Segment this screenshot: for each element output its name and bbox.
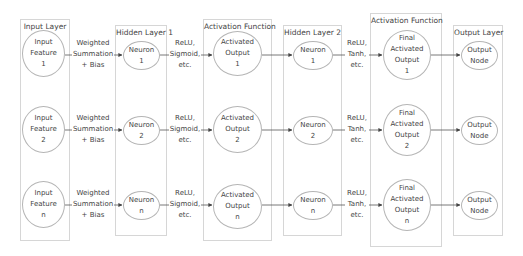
edge-label-activation-1-rown: ReLU, Sigmoid, etc. — [169, 188, 201, 221]
final-activated-output-1-node: Final Activated Output 1 — [383, 30, 431, 80]
final-activated-output-n-node: Final Activated Output n — [383, 179, 431, 231]
input-feature-2-label: Input Feature 2 — [30, 113, 56, 146]
neuron-n-layer-1-node: Neuron n — [123, 191, 160, 220]
activated-output-1-node: Activated Output 1 — [213, 31, 262, 76]
neuron-2-layer-2-label: Neuron 2 — [300, 120, 325, 142]
input-feature-1-label: Input Feature 1 — [30, 37, 56, 70]
edge-label-activation-2-row1: ReLU, Tanh, etc. — [345, 38, 369, 71]
output-node-n-label: Output Node — [467, 195, 491, 217]
neuron-n-layer-2-node: Neuron n — [293, 191, 333, 220]
edge-label-weighted-sum-2: Weighted Summation + Bias — [72, 113, 114, 146]
edge-label-activation-1-row2: ReLU, Sigmoid, etc. — [169, 113, 201, 146]
activated-output-n-label: Activated Output n — [221, 190, 254, 223]
edge-label-activation-2-rown: ReLU, Tanh, etc. — [345, 188, 369, 221]
neuron-1-layer-1-node: Neuron 1 — [123, 41, 160, 70]
input-feature-n-label: Input Feature n — [30, 188, 56, 221]
edge-label-activation-2-row2: ReLU, Tanh, etc. — [345, 113, 369, 146]
edge-label-weighted-sum-n: Weighted Summation + Bias — [72, 188, 114, 221]
activated-output-n-node: Activated Output n — [213, 184, 262, 229]
neuron-n-layer-2-label: Neuron n — [300, 195, 325, 217]
neuron-1-layer-2-node: Neuron 1 — [293, 41, 333, 70]
neuron-2-layer-2-node: Neuron 2 — [293, 116, 333, 145]
neuron-1-layer-1-label: Neuron 1 — [129, 45, 154, 67]
output-node-1-label: Output Node — [467, 45, 491, 67]
activated-output-1-label: Activated Output 1 — [221, 37, 254, 70]
neuron-2-layer-1-node: Neuron 2 — [123, 116, 160, 145]
neuron-1-layer-2-label: Neuron 1 — [300, 45, 325, 67]
edge-label-activation-1-row1: ReLU, Sigmoid, etc. — [169, 38, 201, 71]
output-node-2-label: Output Node — [467, 120, 491, 142]
input-feature-n-node: Input Feature n — [22, 181, 65, 228]
input-feature-1-node: Input Feature 1 — [22, 30, 65, 77]
neuron-2-layer-1-label: Neuron 2 — [129, 120, 154, 142]
input-feature-2-node: Input Feature 2 — [22, 106, 65, 153]
final-activated-output-1-label: Final Activated Output 1 — [390, 33, 423, 77]
final-activated-output-2-node: Final Activated Output 2 — [383, 104, 431, 156]
edge-label-weighted-sum-1: Weighted Summation + Bias — [72, 38, 114, 71]
neuron-n-layer-1-label: Neuron n — [129, 195, 154, 217]
output-node-n: Output Node — [461, 191, 498, 220]
output-node-2: Output Node — [461, 116, 498, 145]
activated-output-2-node: Activated Output 2 — [213, 106, 262, 153]
activated-output-2-label: Activated Output 2 — [221, 113, 254, 146]
final-activated-output-n-label: Final Activated Output n — [390, 183, 423, 227]
output-node-1: Output Node — [461, 41, 498, 70]
final-activated-output-2-label: Final Activated Output 2 — [390, 108, 423, 152]
